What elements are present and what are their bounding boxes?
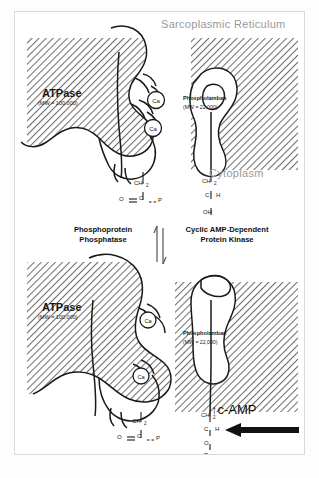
calcium-ion-top-2: Ca xyxy=(145,120,162,137)
top-panel-membrane xyxy=(27,38,298,184)
kinase-line2: Protein Kinase xyxy=(167,235,287,245)
atpase-mw-top: (MW = 100,000) xyxy=(38,100,78,106)
camp-text: c-AMP xyxy=(218,402,257,417)
protein-kinase-label: Cyclic AMP-Dependent Protein Kinase xyxy=(167,225,287,245)
phospholamban-mw-bottom: (MW = 22,000) xyxy=(183,339,217,345)
svg-text:Ca: Ca xyxy=(144,318,152,324)
calcium-ion-bottom-1: Ca xyxy=(140,312,156,328)
equilibrium-arrow xyxy=(154,226,166,264)
kinase-line1: Cyclic AMP-Dependent xyxy=(167,225,287,235)
sarcoplasmic-reticulum-label: Sarcoplasmic Reticulum xyxy=(161,18,286,30)
svg-text:Ca: Ca xyxy=(137,374,145,380)
bottom-panel-membrane xyxy=(27,262,298,438)
figure-panel: Ca Ca xyxy=(14,11,305,455)
camp-stimulus-label: ↑c-AMP xyxy=(211,402,257,417)
atpase-mw-bottom: (MW = 100,000) xyxy=(38,314,78,320)
svg-text:Ca: Ca xyxy=(152,98,160,104)
phosphoprotein-phosphatase-label: Phosphoprotein Phosphatase xyxy=(57,225,149,245)
calcium-ion-top-1: Ca xyxy=(148,92,165,109)
phospholamban-label-bottom: Phospholamban xyxy=(183,330,227,336)
phospholamban-mw-top: (MW = 22,000) xyxy=(183,104,217,110)
atpase-label-top: ATPase xyxy=(42,87,82,99)
svg-text:Ca: Ca xyxy=(149,126,157,132)
calcium-ion-bottom-2: Ca xyxy=(133,368,149,384)
atpase-label-bottom: ATPase xyxy=(42,301,82,313)
cytoplasm-label: Cytoplasm xyxy=(209,167,264,179)
phospholamban-label-top: Phospholamban xyxy=(183,95,227,101)
phosphatase-line1: Phosphoprotein xyxy=(57,225,149,235)
camp-arrow xyxy=(225,423,299,437)
phosphatase-line2: Phosphatase xyxy=(57,235,149,245)
